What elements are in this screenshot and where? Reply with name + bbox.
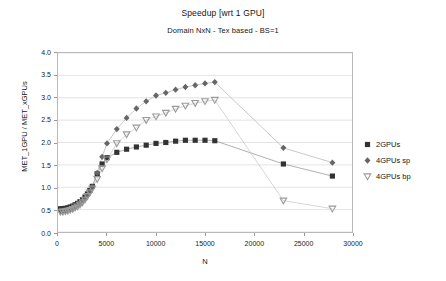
legend-item-4gpus-bp[interactable]: 4GPUs bp (362, 170, 442, 183)
data-point-diamond (192, 82, 198, 88)
data-point-square (124, 147, 129, 152)
y-tick-label: 4.0 (21, 49, 51, 56)
data-point-square (183, 138, 188, 143)
x-tick-label: 30000 (323, 240, 383, 247)
y-tick-label: 3.0 (21, 94, 51, 101)
x-tick-mark (106, 233, 107, 236)
data-point-square (193, 138, 198, 143)
data-point-square (134, 144, 139, 149)
series-markers-1 (58, 79, 335, 214)
plot-svg (58, 53, 352, 232)
data-point-square (153, 141, 158, 146)
data-point-diamond (104, 140, 110, 146)
series-markers-2 (58, 97, 336, 215)
x-tick-mark (205, 233, 206, 236)
chart-container: Speedup [wrt 1 GPU] Domain NxN - Tex bas… (0, 0, 446, 281)
y-tick-label: 1.0 (21, 184, 51, 191)
x-axis-title: N (57, 257, 353, 266)
y-tick-label: 0.5 (21, 207, 51, 214)
data-point-square (212, 138, 217, 143)
plot-area (57, 52, 353, 233)
data-point-triangle-down (329, 206, 336, 212)
x-tick-mark (353, 233, 354, 236)
y-tick-label: 2.5 (21, 116, 51, 123)
data-point-diamond (173, 87, 179, 93)
data-point-square (114, 150, 119, 155)
data-point-square (202, 138, 207, 143)
legend-marker-triangle-down-icon (362, 171, 373, 182)
chart-title: Speedup [wrt 1 GPU] (0, 8, 446, 18)
x-tick-mark (254, 233, 255, 236)
legend-label: 4GPUs sp (376, 156, 410, 165)
data-point-square (281, 161, 286, 166)
data-point-diamond (182, 84, 188, 90)
y-tick-label: 1.5 (21, 162, 51, 169)
data-point-square (173, 139, 178, 144)
data-point-square (365, 142, 370, 147)
data-point-square (163, 140, 168, 145)
legend-marker-diamond-icon (362, 155, 373, 166)
legend-label: 2GPUs (376, 140, 400, 149)
data-point-diamond (163, 90, 169, 96)
y-tick-label: 3.5 (21, 71, 51, 78)
x-tick-mark (57, 233, 58, 236)
chart-subtitle: Domain NxN - Tex based - BS=1 (0, 26, 446, 35)
x-tick-mark (156, 233, 157, 236)
y-tick-label: 0.0 (21, 230, 51, 237)
series-line-1 (60, 82, 332, 211)
legend-item-4gpus-sp[interactable]: 4GPUs sp (362, 154, 442, 167)
chart-legend: 2GPUs4GPUs sp4GPUs bp (362, 138, 442, 186)
legend-label: 4GPUs bp (376, 172, 411, 181)
series-markers-0 (58, 138, 335, 212)
legend-item-2gpus[interactable]: 2GPUs (362, 138, 442, 151)
x-tick-mark (304, 233, 305, 236)
data-point-square (144, 143, 149, 148)
y-tick-label: 2.0 (21, 139, 51, 146)
data-point-diamond (202, 80, 208, 86)
data-point-triangle-down (364, 174, 371, 180)
legend-marker-square-icon (362, 139, 373, 150)
data-point-diamond (365, 157, 371, 163)
data-point-diamond (143, 98, 149, 104)
data-point-square (330, 173, 335, 178)
